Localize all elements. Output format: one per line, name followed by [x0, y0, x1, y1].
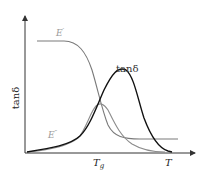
y-axis-label: tanδ — [10, 87, 21, 109]
tan-delta-label: tanδ — [116, 63, 138, 74]
e-prime-label: E′ — [55, 27, 65, 38]
tg-tick-label: Tg — [93, 157, 105, 170]
e-double-prime-curve — [27, 104, 165, 152]
e-prime-curve — [37, 41, 178, 139]
dma-diagram: tanδ E′ E″ tanδ Tg T — [0, 0, 208, 174]
e-double-prime-label: E″ — [47, 129, 58, 140]
x-axis-label: T — [165, 157, 173, 168]
